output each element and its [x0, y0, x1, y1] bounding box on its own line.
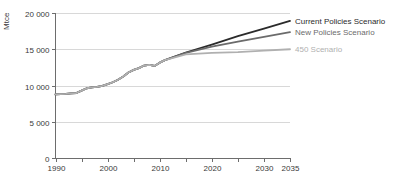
x-tick-label: 2010	[152, 164, 170, 173]
y-axis-label: Mtce	[2, 12, 11, 30]
y-tick-label: 10 000	[25, 83, 50, 92]
y-tick-label: 0	[45, 155, 50, 164]
series-line	[56, 49, 291, 94]
legend-label: New Policies Scenario	[295, 28, 375, 37]
series-group	[56, 21, 291, 94]
x-tick-label: 2020	[204, 164, 222, 173]
legend-label: Current Policies Scenario	[295, 17, 386, 26]
series-line	[56, 32, 291, 94]
chart-container: Mtce 05 00010 00015 00020 000 1990200020…	[0, 0, 400, 187]
x-tick-label: 2030	[256, 164, 274, 173]
y-tick-label: 5 000	[29, 119, 50, 128]
line-chart: Mtce 05 00010 00015 00020 000 1990200020…	[0, 0, 400, 187]
y-tick-label: 15 000	[25, 46, 50, 55]
y-tick-label: 20 000	[25, 10, 50, 19]
x-axis-ticks: 199020002010202020302035	[48, 158, 300, 173]
gridlines	[56, 14, 291, 123]
legend-label: 450 Scenario	[295, 45, 343, 54]
legend: Current Policies ScenarioNew Policies Sc…	[295, 17, 386, 54]
x-tick-label: 2000	[100, 164, 118, 173]
x-tick-label: 1990	[48, 164, 66, 173]
x-tick-label: 2035	[282, 164, 300, 173]
y-axis-ticks: 05 00010 00015 00020 000	[25, 10, 55, 164]
